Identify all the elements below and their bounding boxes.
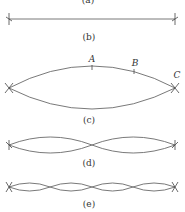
panel-e-label: (e) bbox=[83, 199, 95, 209]
standing-wave-diagram: (a) (b) A B C (c) bbox=[0, 0, 185, 212]
wave-envelope-bottom bbox=[9, 88, 175, 109]
right-node-icon bbox=[172, 140, 178, 150]
panel-d: (d) bbox=[6, 137, 178, 168]
right-node-icon bbox=[171, 83, 179, 93]
wave-curve-2 bbox=[9, 137, 175, 153]
panel-b: (b) bbox=[6, 13, 178, 42]
panel-d-label: (d) bbox=[83, 158, 96, 168]
panel-a-label: (a) bbox=[82, 0, 94, 5]
left-node-icon bbox=[6, 140, 12, 150]
point-b-label: B bbox=[131, 58, 139, 68]
left-node-icon bbox=[6, 182, 12, 192]
panel-b-label: (b) bbox=[83, 32, 96, 42]
panel-c: A B C (c) bbox=[5, 54, 181, 125]
right-node-icon bbox=[172, 182, 178, 192]
panel-e: (e) bbox=[6, 182, 178, 209]
point-a-label: A bbox=[88, 54, 96, 64]
point-c-label: C bbox=[174, 70, 181, 80]
panel-c-label: (c) bbox=[83, 115, 95, 125]
wave-curve-2 bbox=[9, 183, 175, 191]
left-node-icon bbox=[5, 83, 13, 93]
